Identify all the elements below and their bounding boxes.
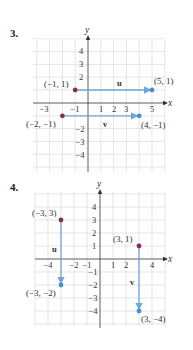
point-end-u-4 [59,283,64,288]
point-start-u-3 [73,88,78,93]
svg-text:−3: −3 [75,137,84,147]
x-axis-label-3: x [167,98,173,108]
graph-4: x y −4 −2 −1 1 2 4 4 3 2 1 −1 −2 −3 −4 u… [26,179,173,328]
svg-text:2: 2 [124,260,128,270]
svg-text:1: 1 [92,241,96,251]
label-end-v-3: (4, −1) [141,120,166,130]
point-end-v-4 [137,309,142,314]
vector-label-u-3: u [117,78,122,88]
svg-text:−3: −3 [39,104,48,114]
point-start-v-4 [137,244,142,249]
point-end-u-3 [150,88,155,93]
svg-text:2: 2 [79,72,83,82]
label-start-u-4: (−3, 3) [32,208,57,218]
coordinate-diagrams: x y −3 −1 1 2 3 5 4 3 2 −2 −3 −4 u (−1, … [0,0,193,350]
svg-text:−4: −4 [43,260,53,270]
svg-text:1: 1 [111,260,115,270]
svg-text:2: 2 [92,228,96,238]
svg-text:3: 3 [124,104,128,114]
label-end-u-3: (5, 1) [154,76,174,86]
label-start-v-4: (3, 1) [113,234,133,244]
svg-text:−4: −4 [75,150,85,160]
svg-text:1: 1 [99,104,103,114]
point-start-v-3 [60,113,65,118]
x-axis-label-4: x [167,254,173,264]
graph-3: x y −3 −1 1 2 3 5 4 3 2 −2 −3 −4 u (−1, … [26,25,174,172]
svg-text:−1: −1 [70,104,79,114]
label-start-v-3: (−2, −1) [26,119,56,129]
point-start-u-4 [59,218,64,223]
svg-text:3: 3 [79,59,83,69]
svg-text:3: 3 [92,215,96,225]
svg-text:4: 4 [79,46,84,56]
vector-label-v-3: v [103,119,108,129]
label-start-u-3: (−1, 1) [44,79,69,89]
svg-text:−2: −2 [75,124,84,134]
svg-text:−2: −2 [69,260,78,270]
svg-text:−3: −3 [88,293,97,303]
vector-label-v-4: v [130,277,135,287]
svg-text:−4: −4 [88,306,98,316]
vector-label-u-4: u [52,244,57,254]
label-end-v-4: (3, −4) [141,314,166,324]
svg-text:−1: −1 [88,267,97,277]
svg-text:−2: −2 [88,280,97,290]
label-end-u-4: (−3, −2) [26,288,56,298]
y-axis-label-4: y [96,179,102,189]
point-end-v-3 [137,113,142,118]
y-axis-label-3: y [84,25,90,35]
svg-text:2: 2 [112,104,116,114]
svg-text:5: 5 [150,104,154,114]
svg-text:4: 4 [150,260,155,270]
